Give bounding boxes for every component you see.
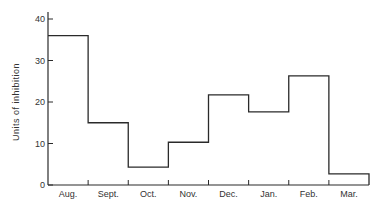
- x-tick-label: Oct.: [140, 189, 157, 199]
- x-tick-label: Feb.: [300, 189, 318, 199]
- step-chart: 010203040 Aug.Sept.Oct.Nov.Dec.Jan.Feb.M…: [0, 0, 388, 206]
- x-tick-label: Jan.: [260, 189, 277, 199]
- x-tick-label: Dec.: [219, 189, 238, 199]
- y-axis: 010203040: [35, 12, 53, 190]
- y-tick-label: 40: [35, 14, 45, 24]
- y-tick-label: 30: [35, 56, 45, 66]
- x-tick-label: Sept.: [98, 189, 119, 199]
- y-axis-title: Units of inhibition: [11, 63, 21, 141]
- x-tick-label: Mar.: [340, 189, 358, 199]
- x-tick-label: Nov.: [180, 189, 198, 199]
- y-tick-label: 0: [40, 180, 45, 190]
- data-step-line: [48, 36, 369, 185]
- y-tick-label: 10: [35, 139, 45, 149]
- y-tick-label: 20: [35, 97, 45, 107]
- x-tick-label: Aug.: [59, 189, 78, 199]
- x-axis: Aug.Sept.Oct.Nov.Dec.Jan.Feb.Mar.: [48, 180, 369, 199]
